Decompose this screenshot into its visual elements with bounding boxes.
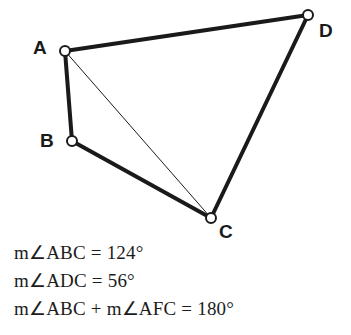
vertex-label-d: D: [319, 21, 333, 40]
diagonal-AC: [65, 51, 211, 218]
segment-AB: [65, 51, 72, 141]
angle-statement-3: m∠ABC + m∠AFC = 180°: [14, 295, 344, 323]
segment-BC: [72, 141, 211, 218]
vertex-point-d: [303, 10, 313, 20]
vertex-point-b: [67, 136, 77, 146]
angle-statement-1: m∠ABC = 124°: [14, 239, 344, 267]
edges-group: [65, 15, 308, 218]
vertex-point-a: [60, 46, 70, 56]
vertices-group: [60, 10, 313, 223]
vertex-label-a: A: [33, 38, 47, 57]
angle-statements-list: m∠ABC = 124° m∠ADC = 56° m∠ABC + m∠AFC =…: [14, 239, 344, 323]
vertex-point-c: [206, 213, 216, 223]
segment-CD: [211, 15, 308, 218]
vertex-label-b: B: [40, 131, 54, 150]
segment-AD: [65, 15, 308, 51]
geometry-figure-page: A B C D m∠ABC = 124° m∠ADC = 56° m∠ABC +…: [0, 0, 351, 335]
angle-statement-2: m∠ADC = 56°: [14, 267, 344, 295]
